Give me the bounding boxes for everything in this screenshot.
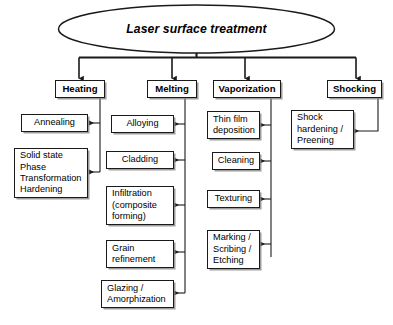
node-texturing[interactable]: Texturing	[207, 190, 260, 208]
category-melting-label: Melting	[148, 83, 196, 94]
node-cleaning-label: Cleaning	[213, 155, 259, 166]
node-grain-refinement[interactable]: Grain refinement	[106, 240, 174, 268]
node-alloying[interactable]: Alloying	[111, 115, 174, 133]
node-annealing[interactable]: Annealing	[21, 114, 88, 132]
node-thin-film-deposition[interactable]: Thin film deposition	[207, 111, 260, 139]
node-shock-hardening-preening[interactable]: Shock hardening / Preening	[291, 110, 354, 149]
node-marking-label: Marking / Scribing / Etching	[208, 232, 259, 266]
node-grain-refinement-label: Grain refinement	[107, 243, 173, 266]
root-node: Laser surface treatment	[58, 5, 335, 53]
node-glazing-label: Glazing / Amorphization	[102, 283, 173, 306]
category-heating-label: Heating	[56, 83, 104, 94]
node-annealing-label: Annealing	[22, 117, 87, 128]
category-vaporization-label: Vaporization	[214, 83, 280, 94]
laser-surface-treatment-diagram: Laser surface treatment Heating Melting …	[0, 0, 393, 325]
node-infiltration[interactable]: Infiltration (composite forming)	[106, 186, 174, 225]
category-heating[interactable]: Heating	[55, 80, 105, 98]
node-cladding-label: Cladding	[107, 154, 173, 165]
category-shocking-label: Shocking	[328, 83, 381, 94]
node-shock-hardening-label: Shock hardening / Preening	[292, 112, 353, 146]
stem-shocking	[354, 98, 378, 131]
root-node-label: Laser surface treatment	[126, 22, 267, 36]
node-cleaning[interactable]: Cleaning	[212, 152, 260, 170]
node-solid-state-label: Solid state Phase Transformation Hardeni…	[15, 150, 87, 196]
category-shocking[interactable]: Shocking	[327, 80, 382, 98]
node-solid-state-phase-transformation-hardening[interactable]: Solid state Phase Transformation Hardeni…	[14, 148, 88, 198]
node-thin-film-deposition-label: Thin film deposition	[208, 114, 259, 137]
node-alloying-label: Alloying	[112, 118, 173, 129]
node-infiltration-label: Infiltration (composite forming)	[107, 188, 173, 222]
category-melting[interactable]: Melting	[147, 80, 197, 98]
category-vaporization[interactable]: Vaporization	[213, 80, 281, 98]
node-glazing-amorphization[interactable]: Glazing / Amorphization	[101, 280, 174, 308]
node-texturing-label: Texturing	[208, 193, 259, 204]
node-cladding[interactable]: Cladding	[106, 151, 174, 169]
node-marking-scribing-etching[interactable]: Marking / Scribing / Etching	[207, 230, 260, 269]
